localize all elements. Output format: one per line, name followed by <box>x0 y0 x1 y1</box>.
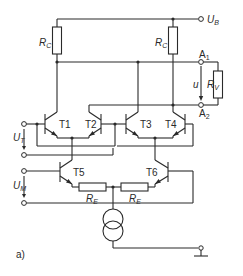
re-left-label: RE <box>86 193 98 205</box>
rc-left-resistor <box>53 19 62 62</box>
output-rail-a1 <box>55 60 218 65</box>
t4-label: T4 <box>165 119 177 130</box>
transistor-t5 <box>60 138 79 187</box>
a1-terminal <box>199 60 204 65</box>
ut-label: UT <box>13 132 25 144</box>
um-plus-terminal <box>22 169 27 174</box>
re-right-label: RE <box>129 193 141 205</box>
t2-label: T2 <box>85 119 97 130</box>
ut-plus-terminal <box>22 122 27 127</box>
supply-rail <box>57 17 203 22</box>
t1-label: T1 <box>59 119 71 130</box>
t5-label: T5 <box>73 167 85 178</box>
circuit-diagram: RC RC UB A1 A2 u RV T1 T2 T3 T4 T5 T6 RE… <box>0 0 243 276</box>
transistor-t6 <box>148 138 168 187</box>
ground-symbol <box>194 246 208 256</box>
output-rail-a2 <box>89 103 218 108</box>
t6-label: T6 <box>146 167 158 178</box>
rc-right-label: RC <box>155 37 168 49</box>
u-label: u <box>193 79 199 90</box>
ut-minus-terminal <box>22 153 27 158</box>
t3-label: T3 <box>140 119 152 130</box>
ub-terminal <box>199 17 204 22</box>
a1-label: A1 <box>199 49 210 61</box>
current-source <box>103 187 198 248</box>
a2-label: A2 <box>199 108 210 120</box>
ub-label: UB <box>207 14 219 26</box>
re-left-resistor <box>79 183 113 191</box>
re-right-resistor <box>111 183 148 191</box>
output-voltage-arrow <box>199 66 203 101</box>
figure-label: a) <box>16 249 25 260</box>
um-minus-terminal <box>22 201 27 206</box>
rc-left-label: RC <box>39 37 52 49</box>
a2-terminal <box>199 103 204 108</box>
